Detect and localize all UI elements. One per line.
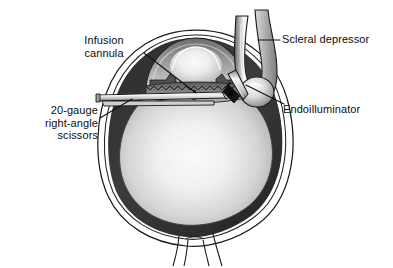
- label-20-gauge-right-angle-scissors: 20-gauge right-angle scissors: [6, 104, 98, 142]
- illustration-figure: Infusion cannula 20-gauge right-angle sc…: [0, 0, 393, 268]
- label-scleral-depressor: Scleral depressor: [282, 33, 393, 46]
- label-endoilluminator: Endoilluminator: [283, 103, 393, 116]
- label-infusion-cannula: Infusion cannula: [62, 34, 146, 59]
